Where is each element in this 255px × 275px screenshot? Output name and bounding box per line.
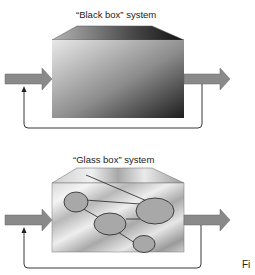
node-1 xyxy=(64,192,88,212)
figure-caption-fragment: Fi xyxy=(242,259,250,270)
feedback-arrowhead-icon xyxy=(22,227,27,233)
node-3 xyxy=(94,213,126,235)
black-box xyxy=(52,40,184,118)
input-arrow xyxy=(5,68,52,90)
node-2 xyxy=(136,198,174,224)
input-arrow xyxy=(5,209,52,231)
glass-box-top-bevel xyxy=(52,168,184,183)
node-4 xyxy=(133,236,155,253)
output-arrow xyxy=(184,209,230,231)
output-arrow xyxy=(184,68,230,90)
feedback-arrowhead-icon xyxy=(22,86,27,92)
black-box-top-bevel xyxy=(52,26,184,40)
black-box-title: “Black box” system xyxy=(76,9,156,20)
glass-box-system xyxy=(5,168,230,268)
systems-diagram xyxy=(0,0,255,275)
black-box-system xyxy=(5,26,230,128)
glass-box-title: “Glass box” system xyxy=(73,154,154,165)
